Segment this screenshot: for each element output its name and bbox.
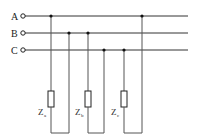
svg-text:Z: Z — [75, 107, 81, 117]
branch-za — [48, 14, 71, 133]
label-zc: Z c — [111, 107, 120, 118]
resistor-zc-icon — [121, 91, 127, 107]
resistor-za-icon — [48, 91, 54, 107]
junction-dot-icon — [122, 48, 125, 51]
junction-dot-icon — [102, 48, 105, 51]
svg-text:c: c — [117, 113, 120, 118]
phase-label-a: A — [11, 11, 19, 22]
label-zb: Z b — [75, 107, 84, 118]
phase-label-b: B — [11, 28, 18, 39]
terminal-b-icon — [21, 31, 25, 35]
branch-zc — [121, 14, 144, 133]
junction-dot-icon — [49, 14, 52, 17]
junction-dot-icon — [86, 31, 89, 34]
resistor-zb-icon — [85, 91, 91, 107]
svg-text:Z: Z — [38, 107, 44, 117]
phase-label-c: C — [11, 45, 18, 56]
svg-text:Z: Z — [111, 107, 117, 117]
svg-text:a: a — [44, 113, 47, 118]
svg-text:b: b — [81, 113, 84, 118]
branch-zb — [85, 31, 106, 133]
terminal-c-icon — [21, 48, 25, 52]
circuit-diagram: A B C Z a Z b Z c — [0, 0, 197, 140]
label-za: Z a — [38, 107, 47, 118]
junction-dot-icon — [140, 14, 143, 17]
junction-dot-icon — [67, 31, 70, 34]
terminal-a-icon — [21, 14, 25, 18]
